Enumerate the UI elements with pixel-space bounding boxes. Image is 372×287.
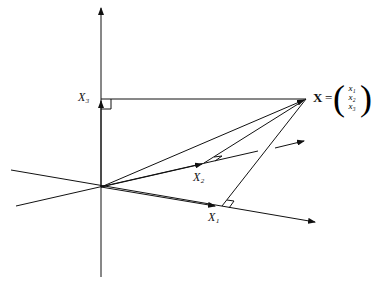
component-column: x₁ x₂ x₃ — [343, 84, 361, 111]
perp-x2 — [204, 99, 306, 163]
label-x3: X₃ — [78, 90, 90, 105]
perp-x1 — [222, 99, 306, 206]
label-x2: X₂ — [193, 170, 205, 185]
right-paren: ) — [360, 80, 372, 116]
right-angle-x3 — [101, 99, 111, 109]
component-x1 — [101, 187, 215, 206]
label-x1: X₁ — [208, 210, 220, 225]
vector-diagram — [0, 0, 372, 287]
component-3: x₃ — [343, 102, 361, 111]
component-x2 — [101, 164, 202, 187]
axis-x1 — [11, 170, 315, 222]
equals-sign: = — [325, 90, 332, 106]
axis-x2-tail — [275, 141, 304, 148]
label-vector-x: X — [313, 90, 322, 106]
